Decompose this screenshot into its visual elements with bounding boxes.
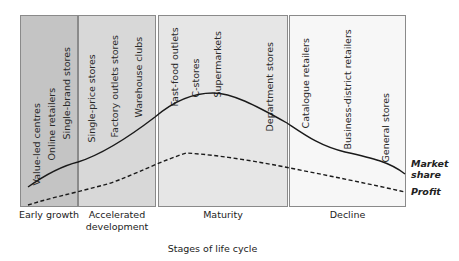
profit-curve: [28, 153, 405, 205]
stage-label-decline: Decline: [289, 209, 406, 221]
stage-label-early-growth: Early growth: [14, 209, 84, 221]
stage-label-line-2: development: [78, 221, 156, 233]
x-axis-title: Stages of life cycle: [0, 243, 425, 254]
stage-label-line-1: Accelerated: [78, 209, 156, 221]
profit-label: Profit: [411, 186, 441, 197]
market-share-label: Market share: [411, 158, 449, 180]
life-cycle-curves: [0, 0, 459, 261]
stage-label-maturity: Maturity: [158, 209, 288, 221]
stage-label-accelerated-development: Accelerated development: [78, 209, 156, 232]
market-share-label-line-2: share: [411, 169, 449, 180]
market-share-label-line-1: Market: [411, 158, 449, 169]
market-share-curve: [28, 93, 405, 187]
